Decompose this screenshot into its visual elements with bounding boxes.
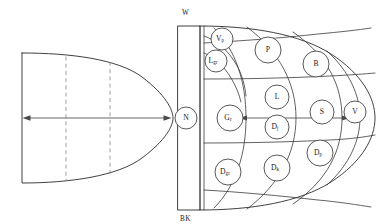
left-arrow-head-start: [23, 115, 31, 120]
node-gr[interactable]: Gr: [217, 105, 243, 131]
band-label-bottom: BK: [180, 215, 191, 223]
node-n[interactable]: N: [175, 107, 197, 129]
left-width-arrow: [23, 115, 172, 120]
node-dj[interactable]: Dj: [265, 115, 289, 139]
node-vp[interactable]: Vp: [211, 28, 233, 50]
left-panel: [22, 53, 173, 183]
node-p-label: P: [266, 45, 270, 54]
figure-root: N Vp Lgr: [0, 0, 390, 224]
node-b[interactable]: B: [303, 51, 329, 77]
node-v-label: V: [352, 107, 358, 116]
node-v[interactable]: V: [344, 101, 366, 123]
node-b-label: B: [313, 59, 318, 68]
row-separator-bottom: [204, 190, 371, 207]
right-panel: N Vp Lgr: [175, 9, 375, 223]
node-dk[interactable]: Dk: [264, 155, 290, 181]
node-dgr[interactable]: Dgr: [215, 159, 241, 185]
node-l[interactable]: L: [265, 85, 289, 109]
node-s-label: S: [320, 107, 324, 116]
left-arrow-head-end: [164, 115, 172, 120]
node-n-label: N: [183, 113, 189, 122]
figure-canvas: N Vp Lgr: [0, 0, 390, 224]
node-p[interactable]: P: [255, 37, 281, 63]
node-dp[interactable]: Dp: [307, 140, 333, 166]
band-label-top: W: [182, 9, 189, 17]
row-separator-lower-mid: [204, 135, 375, 143]
node-s[interactable]: S: [310, 100, 334, 124]
node-l-label: L: [275, 92, 280, 101]
node-lgr[interactable]: Lgr: [205, 50, 227, 72]
